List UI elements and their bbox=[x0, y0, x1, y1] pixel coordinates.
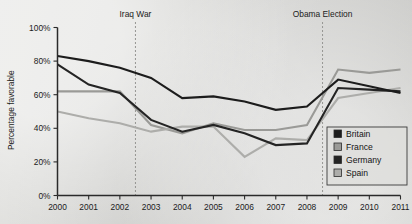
legend-label-germany: Germany bbox=[346, 155, 382, 165]
y-tick-label: 20% bbox=[34, 157, 51, 167]
x-tick-label: 2010 bbox=[360, 202, 379, 212]
event-annotation-labels: Iraq WarObama Election bbox=[120, 9, 353, 19]
x-tick-label: 2003 bbox=[142, 202, 161, 212]
y-axis-ticks: 0%20%40%60%80%100% bbox=[29, 23, 57, 201]
y-tick-label: 100% bbox=[29, 23, 51, 33]
x-tick-label: 2001 bbox=[79, 202, 98, 212]
x-tick-label: 2006 bbox=[235, 202, 254, 212]
y-tick-label: 60% bbox=[34, 90, 51, 100]
x-tick-label: 2005 bbox=[204, 202, 223, 212]
legend-swatch-france bbox=[334, 143, 342, 151]
event-label: Iraq War bbox=[120, 9, 152, 19]
series-line-britain bbox=[58, 56, 401, 110]
x-tick-label: 2000 bbox=[48, 202, 67, 212]
legend-label-britain: Britain bbox=[346, 129, 371, 139]
y-axis-title: Percentage favorable bbox=[6, 70, 16, 150]
x-tick-label: 2011 bbox=[391, 202, 409, 212]
x-tick-label: 2002 bbox=[111, 202, 130, 212]
chart-legend: BritainFranceGermanySpain bbox=[327, 127, 407, 185]
series-line-france bbox=[58, 70, 401, 134]
legend-label-spain: Spain bbox=[346, 168, 368, 178]
y-tick-label: 0% bbox=[38, 191, 51, 201]
legend-swatch-germany bbox=[334, 156, 342, 164]
x-tick-label: 2007 bbox=[266, 202, 285, 212]
chart-canvas: 0%20%40%60%80%100% 200020012002200320042… bbox=[0, 0, 412, 224]
y-tick-label: 40% bbox=[34, 123, 51, 133]
favorability-line-chart: 0%20%40%60%80%100% 200020012002200320042… bbox=[0, 0, 412, 224]
event-label: Obama Election bbox=[293, 9, 353, 19]
legend-swatch-britain bbox=[334, 130, 342, 138]
x-axis-ticks: 2000200120022003200420052006200720082009… bbox=[48, 196, 410, 212]
y-tick-label: 80% bbox=[34, 56, 51, 66]
legend-label-france: France bbox=[346, 142, 373, 152]
legend-swatch-spain bbox=[334, 169, 342, 177]
x-tick-label: 2004 bbox=[173, 202, 192, 212]
x-tick-label: 2009 bbox=[329, 202, 348, 212]
x-tick-label: 2008 bbox=[298, 202, 317, 212]
